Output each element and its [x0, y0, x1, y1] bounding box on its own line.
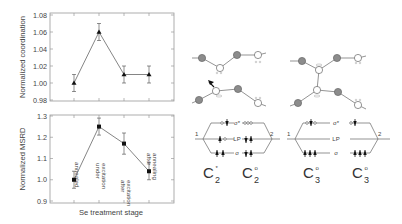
ytick-1.2: 1.2 [37, 133, 47, 142]
atom-open [354, 54, 361, 61]
atom-filled [198, 54, 205, 61]
label-c2-open: C [242, 164, 253, 181]
annotation-excitation-1: excitation [101, 163, 108, 190]
atom-open [315, 66, 322, 73]
svg-text:o: o [365, 165, 369, 171]
level-lp: LP [233, 136, 240, 142]
atom-open [254, 99, 261, 106]
ytick-1.3: 1.3 [37, 112, 47, 121]
level-sigma-star: σ* [234, 120, 241, 126]
top-series-line [74, 32, 149, 83]
ytick-1.04: 1.04 [33, 45, 47, 54]
ytick-1.02: 1.02 [33, 62, 47, 71]
x-axis-label: Se treatment stage [79, 208, 143, 217]
atom-filled [195, 96, 202, 103]
ytick-0.98: 0.98 [33, 96, 47, 105]
ytick-1.1: 1.1 [37, 154, 47, 163]
annotation-after-2: after [146, 153, 153, 165]
atom-open [354, 101, 361, 108]
annotation-annealing: annealing [152, 153, 159, 180]
top-chart: 1.08 1.06 1.04 1.02 1.00 0.98 Normalized… [18, 11, 174, 105]
bottom-error-bars [72, 118, 151, 188]
level-lp: LP [332, 136, 339, 142]
ytick-1.06: 1.06 [33, 28, 47, 37]
top-markers [72, 30, 152, 85]
svg-text:*: * [216, 165, 219, 171]
left-mo-diagram: σ* LP σ 1 2 C 2 * C 2 o [195, 119, 280, 185]
svg-text:o: o [255, 165, 259, 171]
atom-open [216, 64, 223, 71]
left-structure [192, 51, 266, 106]
bottom-chart: 1.3 1.2 1.1 1.0 0.9 Normalized MSRD Se t… [18, 112, 174, 218]
right-mo-diagram: σ* LP σ 1 2 C 3 o C 3 o [287, 119, 390, 185]
atom-open [313, 86, 320, 93]
svg-text:3: 3 [364, 175, 369, 185]
level-sigma-star: σ* [333, 120, 340, 126]
node-1: 1 [287, 131, 291, 137]
svg-text:2: 2 [254, 175, 259, 185]
level-sigma: σ [235, 150, 239, 156]
annotation-annealed: annealed [74, 162, 81, 188]
annotation-under: under [95, 163, 102, 179]
bottom-y-axis-label: Normalized MSRD [18, 127, 27, 190]
node-1: 1 [195, 131, 199, 137]
node-2: 2 [270, 131, 274, 137]
ytick-1.00: 1.00 [33, 79, 47, 88]
atom-open [254, 51, 261, 58]
atom-open [212, 87, 219, 94]
bottom-markers [72, 125, 151, 182]
atom-filled [334, 88, 341, 95]
atom-filled [294, 99, 301, 106]
atom-filled [333, 54, 340, 61]
label-c2-star: C [203, 164, 214, 181]
bottom-series-line [74, 127, 149, 180]
top-y-axis-label: Normalized coordination [18, 16, 27, 98]
top-plot-frame [50, 13, 174, 101]
ytick-1.08: 1.08 [33, 11, 47, 20]
annotation-after-1: after [120, 180, 127, 192]
label-c3-open-2: C [352, 164, 363, 181]
svg-text:3: 3 [315, 175, 320, 185]
node-2: 2 [378, 131, 382, 137]
label-c3-open-1: C [303, 164, 314, 181]
svg-text:o: o [316, 165, 320, 171]
right-structure [290, 54, 366, 109]
atom-filled [298, 57, 305, 64]
ytick-0.9: 0.9 [37, 197, 47, 206]
svg-text:2: 2 [215, 175, 220, 185]
atom-filled [233, 51, 240, 58]
annotation-excitation-2: excitation [126, 180, 133, 207]
level-sigma: σ [334, 150, 338, 156]
ytick-1.0: 1.0 [37, 175, 47, 184]
atom-filled [234, 85, 241, 92]
top-error-bars [72, 24, 151, 92]
figure: 1.08 1.06 1.04 1.02 1.00 0.98 Normalized… [0, 0, 402, 224]
